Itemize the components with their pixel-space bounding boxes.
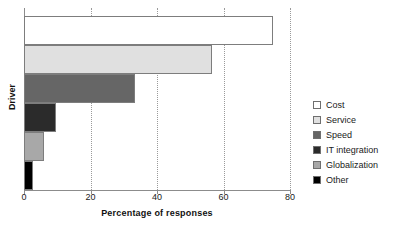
legend-item[interactable]: Cost	[313, 97, 378, 112]
bar-chart: 020406080 Percentage of responses Driver…	[0, 0, 403, 232]
x-axis-title: Percentage of responses	[24, 208, 290, 218]
x-tick-label: 40	[152, 192, 162, 202]
legend-swatch-icon	[313, 176, 321, 184]
x-tick-label: 80	[285, 192, 295, 202]
legend-label: Other	[326, 175, 349, 185]
legend-swatch-icon	[313, 101, 321, 109]
x-tick-label: 20	[85, 192, 95, 202]
gridline	[290, 8, 291, 190]
bar	[24, 132, 44, 161]
x-tick-label: 60	[218, 192, 228, 202]
legend-item[interactable]: IT integration	[313, 142, 378, 157]
legend-label: Cost	[326, 100, 345, 110]
plot-area	[24, 16, 290, 190]
legend-item[interactable]: Globalization	[313, 157, 378, 172]
bar-series	[24, 16, 290, 190]
legend-item[interactable]: Speed	[313, 127, 378, 142]
bar	[24, 74, 135, 103]
bar	[24, 45, 212, 74]
legend-item[interactable]: Other	[313, 172, 378, 187]
legend: CostServiceSpeedIT integrationGlobalizat…	[313, 97, 378, 187]
bar	[24, 161, 33, 190]
legend-item[interactable]: Service	[313, 112, 378, 127]
legend-label: Globalization	[326, 160, 378, 170]
y-axis-title: Driver	[7, 67, 17, 127]
legend-label: Speed	[326, 130, 352, 140]
bar	[24, 16, 273, 45]
legend-swatch-icon	[313, 131, 321, 139]
x-tick-label: 0	[21, 192, 26, 202]
legend-label: IT integration	[326, 145, 378, 155]
legend-swatch-icon	[313, 116, 321, 124]
legend-label: Service	[326, 115, 356, 125]
legend-swatch-icon	[313, 161, 321, 169]
bar	[24, 103, 56, 132]
legend-swatch-icon	[313, 146, 321, 154]
